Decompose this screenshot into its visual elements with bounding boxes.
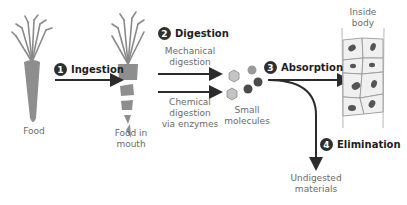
elimination-arrow — [268, 80, 316, 167]
step-digestion: 2 Digestion — [158, 27, 229, 40]
small-molecules-label: Small molecules — [224, 105, 270, 127]
step-title: Digestion — [175, 28, 229, 39]
undigested-materials-label: Undigested materials — [284, 173, 348, 195]
chemical-digestion-label: Chemical digestion via enzymes — [158, 97, 222, 130]
step-title: Absorption — [281, 62, 343, 73]
food-label: Food — [14, 126, 54, 137]
step-number-badge: 1 — [54, 63, 67, 76]
step-ingestion: 1 Ingestion — [54, 63, 124, 76]
molecules-icon — [227, 66, 263, 101]
step-number-badge: 3 — [264, 61, 277, 74]
mechanical-digestion-label: Mechanical digestion — [160, 46, 220, 68]
step-absorption: 3 Absorption — [264, 61, 343, 74]
whole-carrot-icon — [12, 15, 52, 122]
body-cells-icon — [342, 28, 384, 128]
step-elimination: 4 Elimination — [320, 138, 401, 151]
step-title: Elimination — [337, 139, 401, 150]
step-number-badge: 2 — [158, 27, 171, 40]
inside-body-label: Inside body — [342, 7, 384, 29]
step-number-badge: 4 — [320, 138, 333, 151]
step-title: Ingestion — [71, 64, 124, 75]
food-in-mouth-label: Food in mouth — [110, 128, 152, 150]
